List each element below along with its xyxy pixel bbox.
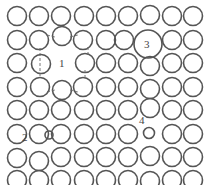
atom	[97, 7, 116, 26]
atom	[75, 148, 94, 167]
atom	[76, 54, 95, 73]
atom	[52, 7, 71, 26]
atoms	[8, 6, 203, 186]
atom	[8, 101, 27, 120]
atom	[8, 171, 27, 186]
atom	[32, 55, 51, 74]
atom	[119, 148, 138, 167]
atom	[184, 171, 203, 186]
atom	[119, 54, 138, 73]
atom	[141, 80, 160, 99]
atom	[97, 148, 116, 167]
atom	[163, 148, 182, 167]
atom	[141, 172, 160, 186]
atom	[184, 7, 203, 26]
atom	[8, 78, 27, 97]
atom	[97, 54, 116, 73]
atom	[184, 31, 203, 50]
atom	[163, 171, 182, 186]
atom	[184, 101, 203, 120]
atom	[97, 31, 116, 50]
atom	[30, 101, 49, 120]
atom	[163, 7, 182, 26]
atom	[75, 171, 94, 186]
atom	[52, 148, 71, 167]
atom	[119, 125, 138, 144]
atom	[30, 31, 49, 50]
atom	[141, 147, 160, 166]
label-substitutional-large: 3	[144, 38, 150, 50]
atom	[30, 171, 49, 186]
atom	[119, 171, 138, 186]
atom	[141, 6, 160, 25]
atom	[97, 125, 116, 144]
atom	[75, 7, 94, 26]
atom	[144, 128, 155, 139]
atom	[53, 27, 72, 46]
atom	[115, 31, 134, 50]
atom	[53, 81, 72, 100]
atom	[74, 31, 93, 50]
atom	[119, 101, 138, 120]
atom	[163, 101, 182, 120]
atom	[8, 54, 27, 73]
atom	[75, 101, 94, 120]
atom	[97, 78, 116, 97]
lattice-diagram: 1 2 3 4	[0, 0, 209, 185]
atom	[184, 148, 203, 167]
atom	[163, 78, 182, 97]
atom	[52, 171, 71, 186]
atom	[141, 57, 160, 76]
label-substitutional-small: 4	[139, 114, 145, 126]
atom	[184, 125, 203, 144]
atom	[184, 54, 203, 73]
atom	[119, 7, 138, 26]
atom	[30, 7, 49, 26]
atom	[184, 78, 203, 97]
label-interstitial-2: 2	[22, 131, 28, 143]
atom	[8, 31, 27, 50]
atom	[163, 54, 182, 73]
atom	[163, 31, 182, 50]
atom	[119, 78, 138, 97]
atom	[52, 101, 71, 120]
label-vacancy: 1	[59, 57, 65, 69]
atom	[97, 101, 116, 120]
atom	[31, 78, 50, 97]
atom	[74, 78, 93, 97]
atom	[163, 125, 182, 144]
atom	[30, 152, 49, 171]
atom	[8, 7, 27, 26]
atom	[8, 149, 27, 168]
atom	[75, 125, 94, 144]
atom	[52, 125, 71, 144]
atom	[97, 171, 116, 186]
